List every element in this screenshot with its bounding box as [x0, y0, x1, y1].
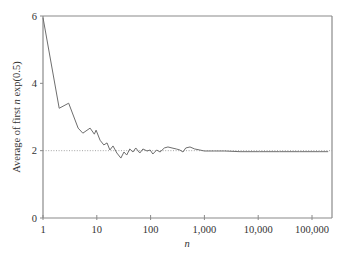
x-tick-label: 1 [40, 224, 45, 235]
series-group [43, 18, 328, 158]
y-axis-title: Average of first n exp(0.5) [11, 61, 23, 173]
y-tick-label: 2 [32, 145, 37, 156]
y-axis-title-part: exp(0.5) [11, 61, 23, 99]
plot-frame [43, 16, 332, 218]
y-tick-label: 4 [32, 78, 38, 89]
y-tick-label: 0 [32, 213, 37, 224]
y-tick-label: 6 [32, 11, 37, 22]
series-line [43, 18, 328, 158]
y-axis: 0246 [32, 11, 43, 224]
x-axis-title: n [184, 238, 189, 249]
x-tick-label: 10 [92, 224, 103, 235]
x-tick-label: 100 [143, 224, 159, 235]
x-tick-label: 10,000 [244, 224, 273, 235]
x-tick-label: 100,000 [295, 224, 329, 235]
y-axis-title-part: Average of first [11, 104, 22, 172]
x-tick-label: 1,000 [193, 224, 217, 235]
chart: 1101001,00010,000100,000 0246 n Average … [0, 0, 345, 260]
